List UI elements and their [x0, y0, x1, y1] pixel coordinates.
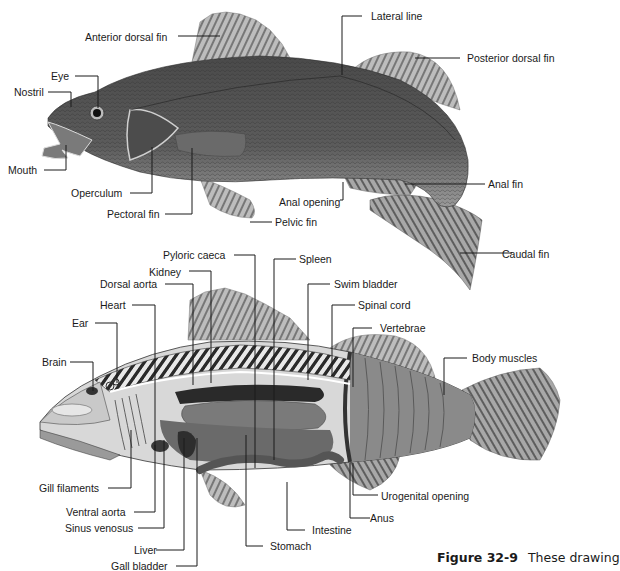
- label-gill-filaments: Gill filaments: [39, 482, 99, 494]
- label-ventral-aorta: Ventral aorta: [66, 506, 126, 518]
- label-eye: Eye: [51, 70, 69, 82]
- label-brain: Brain: [42, 356, 67, 368]
- label-mouth: Mouth: [8, 164, 37, 176]
- label-gall-bladder: Gall bladder: [111, 560, 168, 571]
- external-fish: [42, 12, 482, 290]
- label-dorsal-aorta: Dorsal aorta: [100, 278, 157, 290]
- label-operculum: Operculum: [71, 187, 122, 199]
- caption-text: These drawing: [528, 550, 620, 565]
- internal-fish: [40, 288, 560, 507]
- label-kidney: Kidney: [149, 266, 181, 278]
- label-nostril: Nostril: [14, 86, 44, 98]
- label-anal-opening: Anal opening: [279, 196, 340, 208]
- label-anus: Anus: [370, 512, 394, 524]
- label-lateral-line: Lateral line: [371, 10, 422, 22]
- label-anal-fin: Anal fin: [488, 178, 523, 190]
- label-vertebrae: Vertebrae: [380, 322, 426, 334]
- label-spinal-cord: Spinal cord: [358, 299, 411, 311]
- label-intestine: Intestine: [312, 524, 352, 536]
- label-pelvic-fin: Pelvic fin: [275, 216, 317, 228]
- label-caudal-fin: Caudal fin: [502, 248, 549, 260]
- figure-caption: Figure 32-9These drawing: [437, 550, 620, 565]
- label-stomach: Stomach: [270, 540, 311, 552]
- label-posterior-dorsal-fin: Posterior dorsal fin: [467, 52, 555, 64]
- label-body-muscles: Body muscles: [472, 352, 537, 364]
- label-liver: Liver: [134, 544, 157, 556]
- label-anterior-dorsal-fin: Anterior dorsal fin: [85, 31, 167, 43]
- label-pectoral-fin: Pectoral fin: [107, 208, 160, 220]
- label-sinus-venosus: Sinus venosus: [65, 522, 133, 534]
- label-heart: Heart: [100, 299, 126, 311]
- figure-number: Figure 32-9: [437, 550, 518, 565]
- label-urogenital-opening: Urogenital opening: [381, 490, 469, 502]
- label-spleen: Spleen: [299, 253, 332, 265]
- label-pyloric-caeca: Pyloric caeca: [163, 249, 225, 261]
- label-swim-bladder: Swim bladder: [334, 278, 398, 290]
- label-ear: Ear: [72, 317, 88, 329]
